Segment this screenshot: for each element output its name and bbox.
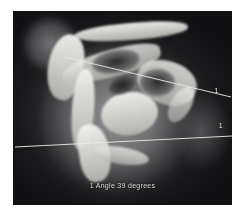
angle-measurement-overlay[interactable] (13, 11, 232, 205)
measurement-line-2[interactable] (15, 136, 232, 147)
measurement-line-2-label: 1 (219, 122, 223, 129)
medical-image-viewer: 1 1 1 Angle 39 degrees (0, 0, 243, 218)
measurement-line-1-label: 1 (214, 87, 218, 94)
scan-image-frame[interactable]: 1 1 1 Angle 39 degrees (13, 11, 232, 205)
measurement-line-1[interactable] (65, 57, 231, 97)
angle-measurement-caption: 1 Angle 39 degrees (13, 182, 232, 190)
